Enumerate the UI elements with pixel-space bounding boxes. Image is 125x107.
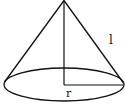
radius-label: r	[66, 87, 72, 100]
slant-height-label: l	[109, 33, 113, 47]
cone-diagram: l r	[0, 0, 125, 107]
